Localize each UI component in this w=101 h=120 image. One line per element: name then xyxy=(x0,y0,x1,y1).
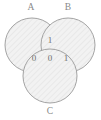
region-value-ac: 0 xyxy=(32,53,37,63)
region-value-ab: 1 xyxy=(48,35,53,45)
region-value-abc: 0 xyxy=(48,53,53,63)
venn-diagram-canvas: A B C 1 0 0 1 xyxy=(0,0,101,120)
set-label-c: C xyxy=(47,106,53,116)
set-label-a: A xyxy=(28,2,35,12)
set-label-b: B xyxy=(65,2,71,12)
venn-diagram-figure: A B C 1 0 0 1 xyxy=(0,0,101,120)
region-value-bc: 1 xyxy=(64,53,69,63)
